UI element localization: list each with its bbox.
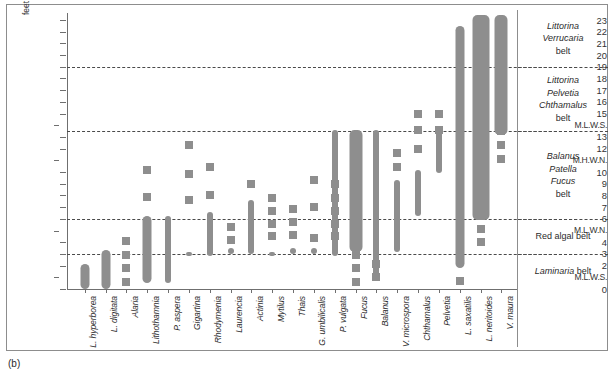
occurrence-square [331,180,339,188]
occurrence-square [289,218,297,226]
occurrence-square [268,207,276,215]
y-tick-mark [60,149,66,150]
occurrence-square [352,155,360,163]
y-tick-mark [60,102,66,103]
y-tick-mark [60,78,66,79]
species-label: Balanus [380,296,390,326]
species-label: Laurencia [234,296,244,333]
occurrence-square [352,278,360,286]
x-tick-mark [251,289,252,293]
species-label: Pelvetia [442,296,452,326]
occurrence-square [477,238,485,246]
data-marks-layer [67,13,517,289]
zone-line: Laminaria belt [535,265,592,278]
y-tick-mark [54,160,59,161]
occurrence-square [456,277,464,285]
zone-label: Laminaria belt [518,254,608,289]
occurrence-square [310,203,318,211]
x-tick-mark [314,289,315,293]
occurrence-square [456,30,464,38]
occurrence-square [393,163,401,171]
species-label: G. umbilicalis [317,296,327,346]
zone-suffix: belt [556,188,571,201]
zone-panel: LittorinaVerrucariabeltLittorinaPelvetia… [518,10,608,347]
occurrence-square [122,278,130,286]
x-tick-mark [439,289,440,293]
y-tick-mark [54,125,59,126]
species-column [489,13,513,289]
y-tick-mark [60,137,66,138]
x-tick-mark [501,289,502,293]
occurrence-square [435,126,443,134]
range-bar [394,180,400,251]
occurrence-square [414,126,422,134]
occurrence-square [185,170,193,178]
species-label: Thais [297,296,307,317]
x-tick-mark [481,289,482,293]
y-tick-mark [60,67,66,68]
range-bar [415,170,421,217]
x-tick-mark [272,289,273,293]
species-label: P. aspera [172,296,182,331]
zone-line: Chthamalus [539,99,587,112]
zone-label: Red algal belt [518,219,608,254]
x-tick-mark [356,289,357,293]
range-bar [311,248,317,254]
zone-line: Balanus [547,150,580,163]
occurrence-square [227,236,235,244]
x-tick-mark [85,289,86,293]
x-tick-mark [106,289,107,293]
occurrence-square [206,163,214,171]
occurrence-square [414,110,422,118]
range-bar [186,252,192,257]
occurrence-square [122,251,130,259]
occurrence-square [497,155,505,163]
x-tick-mark [293,289,294,293]
occurrence-square [456,223,464,231]
y-tick-mark [54,277,59,278]
species-label: Chthamalus [422,296,432,341]
occurrence-square [352,186,360,194]
y-tick-mark [60,43,66,44]
range-bar [228,248,234,254]
occurrence-square [456,44,464,52]
occurrence-square [143,193,151,201]
zone-separator [518,254,608,255]
x-tick-mark [210,289,211,293]
y-tick-mark [60,20,66,21]
occurrence-square [331,220,339,228]
range-bar [373,130,379,280]
species-label: L. saxatilis [463,296,473,335]
occurrence-square [122,237,130,245]
occurrence-square [456,236,464,244]
y-tick-mark [60,172,66,173]
occurrence-square [331,207,339,215]
x-tick-mark [147,289,148,293]
range-bar [101,250,110,289]
zone-line: Patella [549,163,577,176]
species-label: V. maura [505,296,515,329]
x-tick-mark [168,289,169,293]
zone-line: Fucus [551,175,576,188]
species-label: Actinia [255,296,265,321]
y-tick-mark [60,184,66,185]
occurrence-square [143,166,151,174]
y-tick-mark [60,114,66,115]
y-axis-unit-label: feet [21,1,31,15]
zone-label: BalanusPatellaFucusbelt [518,131,608,219]
range-bar [207,212,213,256]
zone-line: Littorina [547,20,579,33]
range-bar [472,15,489,220]
y-tick-mark [60,266,66,267]
occurrence-square [393,149,401,157]
occurrence-square [268,232,276,240]
occurrence-square [289,231,297,239]
species-label: Rhodymenia [213,296,223,343]
occurrence-square [456,59,464,67]
range-bar [269,252,275,257]
occurrence-square [310,176,318,184]
occurrence-square [206,191,214,199]
species-label: L. neritoides [484,296,494,342]
occurrence-square [372,260,380,268]
occurrence-square [185,196,193,204]
